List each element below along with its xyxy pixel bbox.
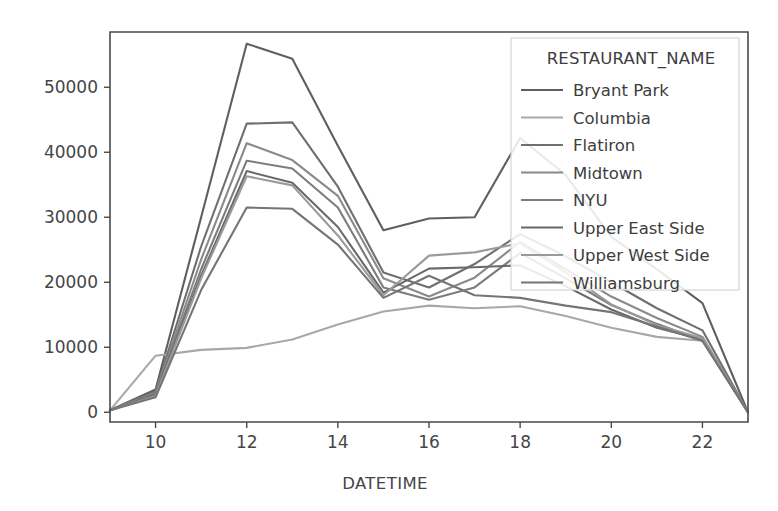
line-chart-canvas: 1012141618202201000020000300004000050000…: [0, 0, 778, 511]
legend-label-columbia[interactable]: Columbia: [573, 109, 651, 128]
legend-label-midtown[interactable]: Midtown: [573, 164, 643, 183]
legend-label-nyu[interactable]: NYU: [573, 191, 608, 210]
chart-figure: 1012141618202201000020000300004000050000…: [0, 0, 778, 511]
y-tick-label: 10000: [44, 337, 98, 357]
x-tick-label: 14: [327, 432, 349, 452]
legend-label-flatiron[interactable]: Flatiron: [573, 136, 635, 155]
y-tick-label: 40000: [44, 142, 98, 162]
chart-legend: RESTAURANT_NAMEBryant ParkColumbiaFlatir…: [511, 38, 739, 293]
legend-label-williamsburg[interactable]: Williamsburg: [573, 274, 680, 293]
x-axis-title: DATETIME: [342, 474, 428, 493]
x-tick-label: 22: [692, 432, 714, 452]
y-tick-label: 50000: [44, 77, 98, 97]
legend-label-upper-west-side[interactable]: Upper West Side: [573, 246, 710, 265]
y-tick-label: 20000: [44, 272, 98, 292]
legend-label-bryant-park[interactable]: Bryant Park: [573, 81, 669, 100]
legend-title: RESTAURANT_NAME: [547, 49, 716, 69]
x-tick-label: 16: [418, 432, 440, 452]
y-tick-label: 30000: [44, 207, 98, 227]
x-tick-label: 10: [145, 432, 167, 452]
y-tick-label: 0: [87, 402, 98, 422]
legend-label-upper-east-side[interactable]: Upper East Side: [573, 219, 705, 238]
x-tick-label: 12: [236, 432, 258, 452]
x-tick-label: 20: [600, 432, 622, 452]
x-tick-label: 18: [509, 432, 531, 452]
